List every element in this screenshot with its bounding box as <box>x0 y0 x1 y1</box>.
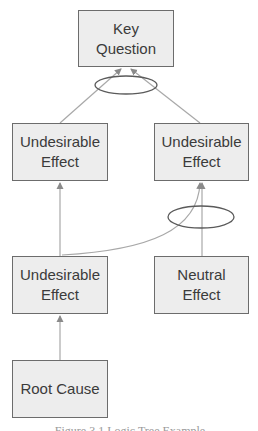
and-junction-ellipse-lower <box>168 206 234 228</box>
figure-caption: Figure 3.1 Logic Tree Example <box>30 421 230 431</box>
connector-ue-bottom-left-to-ue-top-right <box>62 183 200 255</box>
and-junction-ellipse-top <box>95 76 157 94</box>
node-label-line2: Effect <box>41 285 79 305</box>
node-key-question-line1: Key <box>113 19 139 39</box>
node-label-line2: Effect <box>41 152 79 172</box>
node-undesirable-effect-bottom-left: Undesirable Effect <box>12 256 108 314</box>
node-key-question-line2: Question <box>96 39 156 59</box>
node-root-cause: Root Cause <box>12 360 108 418</box>
node-label-line1: Root Cause <box>20 379 99 399</box>
node-undesirable-effect-top-left: Undesirable Effect <box>12 123 108 181</box>
node-key-question: Key Question <box>78 10 174 67</box>
node-label-line1: Undesirable <box>20 132 100 152</box>
node-label-line1: Undesirable <box>20 265 100 285</box>
node-label-line2: Effect <box>182 285 220 305</box>
node-undesirable-effect-top-right: Undesirable Effect <box>154 123 249 181</box>
node-label-line2: Effect <box>182 152 220 172</box>
node-neutral-effect: Neutral Effect <box>154 256 249 314</box>
node-label-line1: Undesirable <box>161 132 241 152</box>
node-label-line1: Neutral <box>177 265 225 285</box>
